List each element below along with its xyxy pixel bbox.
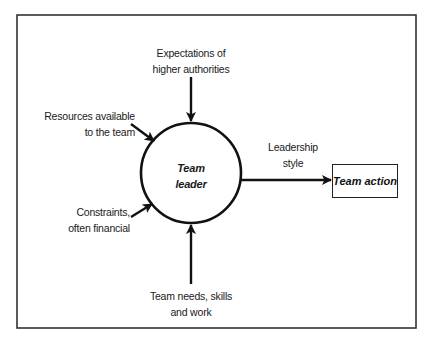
label-leadership-style: Leadership style	[258, 139, 328, 171]
label-resources-line1: Resources available	[35, 108, 135, 124]
label-expectations-line2: higher authorities	[141, 61, 241, 77]
arrow-constraints	[131, 204, 152, 217]
label-constraints: Constraints, often financial	[35, 204, 130, 236]
label-expectations: Expectations of higher authorities	[141, 45, 241, 77]
label-team-needs: Team needs, skills and work	[141, 288, 241, 320]
label-constraints-line1: Constraints,	[35, 204, 130, 220]
label-team-leader: Team leader	[151, 160, 231, 192]
label-team-needs-line1: Team needs, skills	[141, 288, 241, 304]
label-team-leader-line2: leader	[151, 176, 231, 192]
label-team-leader-line1: Team	[151, 160, 231, 176]
label-resources-line2: to the team	[35, 124, 135, 140]
label-team-needs-line2: and work	[141, 304, 241, 320]
label-leadership-style-line2: style	[258, 155, 328, 171]
label-constraints-line2: often financial	[35, 220, 130, 236]
label-resources: Resources available to the team	[35, 108, 135, 140]
team-action-label: Team action	[333, 175, 397, 187]
label-leadership-style-line1: Leadership	[258, 139, 328, 155]
label-expectations-line1: Expectations of	[141, 45, 241, 61]
team-action-box: Team action	[332, 164, 398, 198]
